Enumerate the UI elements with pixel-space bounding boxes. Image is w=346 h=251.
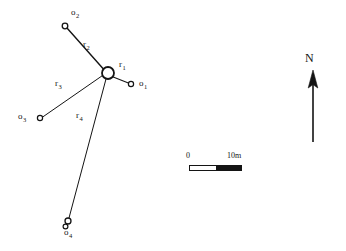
scale-bar-segment-dark [216, 166, 242, 170]
node-label-o4: o4 [64, 228, 72, 237]
radius-label-r4: r4 [76, 111, 82, 120]
scale-bar: 0 10m [186, 152, 248, 174]
north-arrow-label: N [305, 52, 314, 64]
figure-root: o1 o2 o3 o4 r1 r2 r3 r4 0 10m N [0, 0, 346, 251]
scale-bar-end-label: 10m [227, 152, 241, 160]
radius-line-r3 [42, 76, 102, 118]
north-arrow: N [300, 52, 326, 144]
node-o1 [128, 81, 133, 86]
diagram-canvas [0, 0, 346, 251]
observation-nodes [37, 23, 133, 229]
scale-bar-segment-light [190, 166, 216, 170]
scale-bar-start-label: 0 [186, 152, 190, 160]
radius-label-r1: r1 [119, 60, 125, 69]
radius-line-r4 [69, 79, 106, 218]
node-o2 [62, 23, 68, 29]
central-station-node [102, 67, 114, 79]
node-o4 [65, 218, 71, 224]
node-label-o2: o2 [71, 8, 79, 17]
radius-label-r3: r3 [55, 79, 61, 88]
scale-bar-labels: 0 10m [186, 152, 248, 163]
node-label-o1: o1 [139, 79, 147, 88]
radius-line-r1 [113, 77, 129, 83]
node-o3 [37, 115, 42, 120]
node-label-o3: o3 [18, 112, 26, 121]
scale-bar-graphic [189, 165, 242, 171]
radius-label-r2: r2 [83, 40, 89, 49]
north-arrow-icon [300, 68, 326, 144]
radius-lines [42, 28, 129, 218]
